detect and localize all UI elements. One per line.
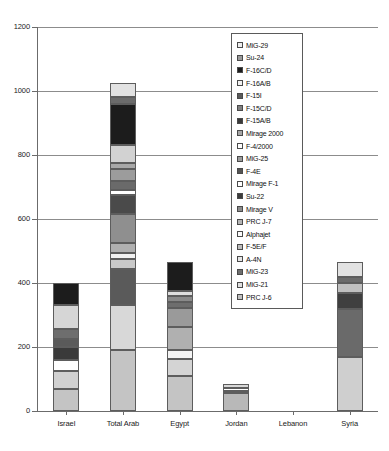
- x-tick-label: Syria: [316, 419, 384, 428]
- legend-swatch-icon: [237, 67, 243, 73]
- legend-swatch-icon: [237, 80, 243, 86]
- legend-swatch-icon: [237, 256, 243, 262]
- legend-swatch-icon: [237, 244, 243, 250]
- legend-item-label: F-5E/F: [246, 243, 267, 250]
- y-tick-mark: [32, 155, 37, 156]
- legend-item: F-16A/B: [237, 77, 298, 90]
- bar-segment: [167, 296, 193, 302]
- gridline: [38, 91, 378, 92]
- bar-segment: [110, 190, 136, 195]
- bar-segment: [53, 389, 79, 411]
- legend-item-label: F-4E: [246, 168, 261, 175]
- y-tick-label: 1000: [0, 87, 30, 95]
- x-tick-mark: [123, 411, 124, 415]
- bar-segment: [167, 359, 193, 376]
- bar-segment: [110, 145, 136, 163]
- bar-egypt: [167, 262, 193, 411]
- legend-item: Mirage V: [237, 203, 298, 216]
- legend-item-label: MiG-21: [246, 281, 268, 288]
- legend-swatch-icon: [237, 55, 243, 61]
- bar-segment: [110, 104, 136, 146]
- bar-segment: [53, 371, 79, 389]
- legend-item: A-4N: [237, 253, 298, 266]
- legend-swatch-icon: [237, 42, 243, 48]
- gridline: [38, 219, 378, 220]
- legend-item-label: MiG-25: [246, 155, 268, 162]
- bar-jordan: [223, 384, 249, 411]
- legend-swatch-icon: [237, 118, 243, 124]
- legend-item: F-5E/F: [237, 241, 298, 254]
- y-tick-mark: [32, 283, 37, 284]
- bar-segment: [110, 253, 136, 259]
- legend-swatch-icon: [237, 193, 243, 199]
- legend-item: F-15C/D: [237, 102, 298, 115]
- legend-swatch-icon: [237, 219, 243, 225]
- bar-segment: [337, 262, 363, 276]
- legend-swatch-icon: [237, 105, 243, 111]
- bar-segment: [337, 283, 363, 293]
- bar-segment: [110, 243, 136, 253]
- y-tick-label: 600: [0, 215, 30, 223]
- legend-item-label: Alphajet: [246, 231, 270, 238]
- legend-item-label: Mirage V: [246, 206, 273, 213]
- gridline: [38, 27, 378, 28]
- gridline: [38, 347, 378, 348]
- legend-item-label: Su-24: [246, 54, 264, 61]
- legend-item: Mirage F-1: [237, 178, 298, 191]
- bar-segment: [53, 360, 79, 371]
- legend-item-label: Mirage F-1: [246, 180, 278, 187]
- legend-item-label: MiG-29: [246, 42, 268, 49]
- x-axis-line: [37, 411, 378, 412]
- legend-swatch-icon: [237, 130, 243, 136]
- bar-segment: [110, 83, 136, 97]
- bar-segment: [223, 388, 249, 391]
- legend-swatch-icon: [237, 93, 243, 99]
- x-tick-mark: [66, 411, 67, 415]
- x-tick-mark: [180, 411, 181, 415]
- legend-item: Alphajet: [237, 228, 298, 241]
- chart-legend: MiG-29Su-24F-16C/DF-16A/BF-15IF-15C/DF-1…: [231, 33, 303, 309]
- legend-item-label: F-16A/B: [246, 80, 271, 87]
- bar-segment: [110, 269, 136, 306]
- bar-segment: [110, 350, 136, 411]
- bar-segment: [110, 195, 136, 214]
- bar-segment: [167, 327, 193, 349]
- legend-item: MiG-29: [237, 39, 298, 52]
- legend-item: PRC J-7: [237, 215, 298, 228]
- legend-item: Su-24: [237, 52, 298, 65]
- legend-item: F-15I: [237, 89, 298, 102]
- legend-swatch-icon: [237, 294, 243, 300]
- legend-item-label: MiG-23: [246, 268, 268, 275]
- bar-segment: [167, 350, 193, 360]
- legend-swatch-icon: [237, 168, 243, 174]
- legend-item-label: Mirage 2000: [246, 130, 283, 137]
- bar-segment: [53, 305, 79, 329]
- stacked-bar-chart: 020040060080010001200 IsraelTotal ArabEg…: [0, 0, 389, 451]
- gridline: [38, 283, 378, 284]
- bar-segment: [53, 283, 79, 305]
- bar-segment: [110, 169, 136, 180]
- legend-item: F-15A/B: [237, 115, 298, 128]
- legend-item-label: PRC J-6: [246, 294, 271, 301]
- legend-item: F-16C/D: [237, 64, 298, 77]
- bar-segment: [110, 214, 136, 243]
- bar-segment: [337, 277, 363, 283]
- bar-segment: [167, 308, 193, 327]
- legend-item-label: F-15A/B: [246, 117, 271, 124]
- y-tick-mark: [32, 91, 37, 92]
- legend-item: F-4E: [237, 165, 298, 178]
- y-tick-mark: [32, 27, 37, 28]
- legend-item: F-4/2000: [237, 140, 298, 153]
- bar-segment: [167, 262, 193, 291]
- bar-segment: [167, 302, 193, 308]
- legend-item-label: F-4/2000: [246, 143, 273, 150]
- legend-swatch-icon: [237, 143, 243, 149]
- y-tick-label: 800: [0, 151, 30, 159]
- bar-israel: [53, 283, 79, 411]
- bar-segment: [110, 259, 136, 269]
- legend-item: MiG-23: [237, 266, 298, 279]
- plot-area: [38, 27, 378, 411]
- x-tick-mark: [236, 411, 237, 415]
- legend-item: MiG-21: [237, 278, 298, 291]
- bar-segment: [110, 97, 136, 103]
